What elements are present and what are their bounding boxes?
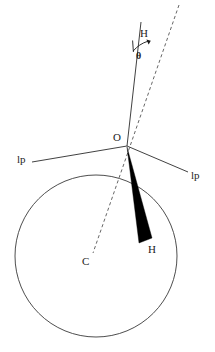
lp-left-ray bbox=[32, 146, 127, 162]
theta-arc-tick bbox=[133, 41, 134, 53]
label-lp-right: lp bbox=[191, 170, 200, 181]
main-circle bbox=[15, 175, 177, 337]
theta-arrow-head-icon bbox=[146, 40, 150, 45]
label-origin-O: O bbox=[113, 132, 121, 143]
label-angle-theta: θ bbox=[136, 50, 141, 61]
black-wedge-needle bbox=[127, 147, 152, 243]
label-lp-left: lp bbox=[17, 154, 26, 165]
lp-right-ray bbox=[127, 146, 188, 172]
diagram-canvas: O C H H θ lp lp bbox=[0, 0, 215, 352]
diagram-svg bbox=[0, 0, 215, 352]
h-axis-line bbox=[127, 22, 141, 146]
label-wedge-bottom-H: H bbox=[148, 244, 156, 255]
label-center-C: C bbox=[82, 256, 89, 267]
label-axis-top-H: H bbox=[140, 28, 148, 39]
